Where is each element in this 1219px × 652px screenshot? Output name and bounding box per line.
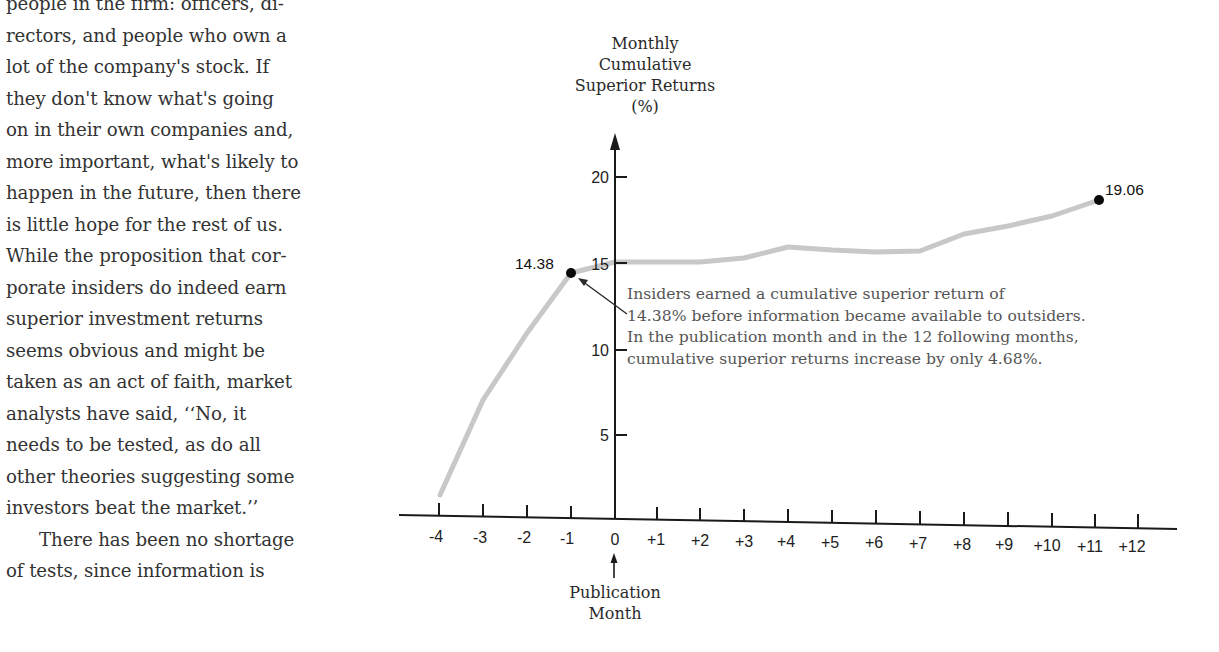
x-tick-label: +11 bbox=[1077, 538, 1103, 555]
x-tick-labels: -4 -3 -2 -1 0 +1 +2 +3 +4 +5 +6 +7 +8 +9… bbox=[429, 528, 1146, 555]
annotation-line: In the publication month and in the 12 f… bbox=[627, 327, 1086, 349]
x-tick-label: +4 bbox=[777, 533, 795, 550]
svg-text:10: 10 bbox=[591, 342, 609, 359]
chart-annotation: Insiders earned a cumulative superior re… bbox=[627, 284, 1086, 370]
y-axis-title-line: Monthly bbox=[520, 33, 770, 54]
annotation-leader-line bbox=[582, 281, 627, 314]
x-tick-label: -3 bbox=[473, 529, 487, 546]
x-tick-label: +3 bbox=[735, 533, 753, 550]
y-axis-title-line: (%) bbox=[520, 96, 770, 117]
x-tick-label: +7 bbox=[909, 535, 927, 552]
y-axis-title-line: Superior Returns bbox=[520, 75, 770, 96]
point-label-19-06: 19.06 bbox=[1105, 181, 1144, 198]
svg-text:20: 20 bbox=[591, 169, 609, 186]
y-axis-title-line: Cumulative bbox=[520, 54, 770, 75]
x-tick-label: +8 bbox=[953, 536, 971, 553]
y-axis-arrow-icon bbox=[610, 133, 620, 150]
svg-text:15: 15 bbox=[591, 256, 609, 273]
annotation-line: cumulative superior returns increase by … bbox=[627, 349, 1086, 371]
x-ticks bbox=[439, 490, 1138, 528]
x-tick-label: -2 bbox=[517, 529, 531, 546]
x-tick-label: +10 bbox=[1033, 537, 1060, 554]
x-tick-label: 0 bbox=[611, 531, 620, 548]
publication-arrow-icon bbox=[611, 553, 618, 563]
x-tick-label: +5 bbox=[821, 534, 839, 551]
x-tick-label: +12 bbox=[1118, 538, 1145, 555]
x-tick-label: +2 bbox=[691, 532, 709, 549]
x-axis-title-line: Month bbox=[545, 603, 685, 624]
x-tick-label: -4 bbox=[429, 528, 443, 545]
marker-19-06 bbox=[1094, 195, 1104, 205]
y-axis-title: Monthly Cumulative Superior Returns (%) bbox=[520, 33, 770, 117]
x-tick-label: +9 bbox=[995, 536, 1013, 553]
annotation-line: Insiders earned a cumulative superior re… bbox=[627, 284, 1086, 306]
svg-text:5: 5 bbox=[600, 427, 609, 444]
annotation-line: 14.38% before information became availab… bbox=[627, 306, 1086, 328]
y-tick-labels: 20 15 10 5 bbox=[591, 169, 609, 444]
x-axis-title-line: Publication bbox=[545, 582, 685, 603]
marker-14-38 bbox=[566, 268, 576, 278]
x-tick-label: +1 bbox=[647, 531, 665, 548]
x-axis-title: Publication Month bbox=[545, 582, 685, 624]
x-tick-label: +6 bbox=[865, 534, 883, 551]
point-label-14-38: 14.38 bbox=[515, 255, 554, 272]
x-tick-label: -1 bbox=[560, 530, 574, 547]
